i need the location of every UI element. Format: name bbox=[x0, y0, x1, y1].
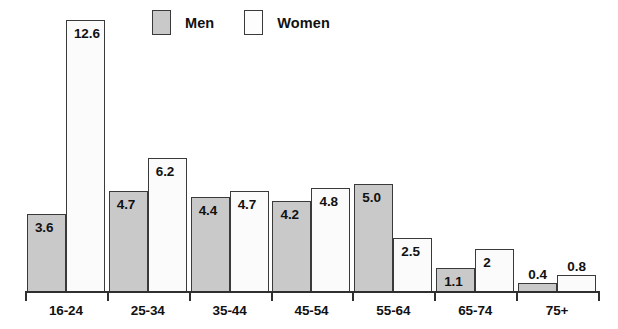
bar-group: 4.76.2 bbox=[107, 0, 189, 292]
x-axis-line bbox=[25, 291, 598, 293]
bar-group: 5.02.5 bbox=[352, 0, 434, 292]
bar-group: 3.612.6 bbox=[25, 0, 107, 292]
x-axis-tick bbox=[598, 291, 600, 301]
bar-value-label: 6.2 bbox=[156, 164, 174, 179]
bar-value-label: 0.4 bbox=[528, 267, 546, 282]
x-axis-tick bbox=[25, 291, 27, 301]
bar-group: 1.12 bbox=[434, 0, 516, 292]
bar-group: 4.44.7 bbox=[189, 0, 271, 292]
bar-value-label: 4.2 bbox=[280, 207, 298, 222]
bar-value-label: 3.6 bbox=[35, 220, 53, 235]
bar-value-label: 4.8 bbox=[319, 194, 337, 209]
bar-women-55-64[interactable]: 2.5 bbox=[393, 238, 432, 292]
x-axis-tick bbox=[516, 291, 518, 301]
x-axis-tick bbox=[107, 291, 109, 301]
x-axis-tick bbox=[352, 291, 354, 301]
bar-group: 0.40.8 bbox=[516, 0, 598, 292]
bar-men-45-54[interactable]: 4.2 bbox=[272, 201, 311, 292]
bar-value-label: 0.8 bbox=[567, 259, 585, 274]
bar-value-label: 12.6 bbox=[74, 26, 100, 41]
x-axis-label-45-54: 45-54 bbox=[271, 303, 353, 318]
x-axis-label-65-74: 65-74 bbox=[434, 303, 516, 318]
plot-area: 3.612.64.76.24.44.74.24.85.02.51.120.40.… bbox=[0, 0, 618, 292]
bar-women-45-54[interactable]: 4.8 bbox=[311, 188, 350, 292]
bar-group: 4.24.8 bbox=[271, 0, 353, 292]
bar-men-65-74[interactable]: 1.1 bbox=[436, 268, 475, 292]
x-axis-label-35-44: 35-44 bbox=[189, 303, 271, 318]
bar-men-35-44[interactable]: 4.4 bbox=[191, 197, 230, 292]
bar-women-65-74[interactable]: 2 bbox=[475, 249, 514, 292]
x-axis-label-75+: 75+ bbox=[516, 303, 598, 318]
x-axis-label-55-64: 55-64 bbox=[352, 303, 434, 318]
bar-value-label: 1.1 bbox=[444, 274, 462, 289]
bar-value-label: 2 bbox=[483, 255, 490, 270]
bar-women-16-24[interactable]: 12.6 bbox=[66, 20, 105, 292]
bar-chart: Men Women 3.612.64.76.24.44.74.24.85.02.… bbox=[0, 0, 618, 329]
bar-men-55-64[interactable]: 5.0 bbox=[354, 184, 393, 292]
bar-value-label: 5.0 bbox=[362, 190, 380, 205]
bar-value-label: 4.7 bbox=[117, 197, 135, 212]
x-axis-tick bbox=[434, 291, 436, 301]
x-axis-tick bbox=[189, 291, 191, 301]
bar-value-label: 2.5 bbox=[401, 244, 419, 259]
bar-value-label: 4.4 bbox=[199, 203, 217, 218]
bar-value-label: 4.7 bbox=[238, 197, 256, 212]
x-axis-label-25-34: 25-34 bbox=[107, 303, 189, 318]
bar-women-25-34[interactable]: 6.2 bbox=[148, 158, 187, 292]
bar-women-75+[interactable]: 0.8 bbox=[557, 275, 596, 292]
bar-men-25-34[interactable]: 4.7 bbox=[109, 191, 148, 292]
bar-men-16-24[interactable]: 3.6 bbox=[27, 214, 66, 292]
x-axis-tick bbox=[271, 291, 273, 301]
x-axis-label-16-24: 16-24 bbox=[25, 303, 107, 318]
bar-women-35-44[interactable]: 4.7 bbox=[230, 191, 269, 292]
